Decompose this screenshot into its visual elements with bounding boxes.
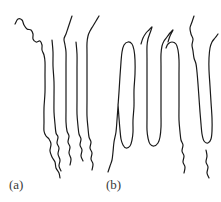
chain-diagram-canvas (0, 0, 221, 202)
polymer-chain-figure: (a) (b) (0, 0, 221, 202)
chain-strand (190, 16, 218, 143)
chain-strand (206, 150, 209, 178)
chain-strand-group (15, 16, 218, 178)
chain-strand (87, 16, 99, 170)
chain-strand (166, 42, 185, 173)
chain-strand (76, 42, 83, 161)
chain-strand (64, 16, 72, 165)
chain-strand (141, 27, 173, 146)
panel-label-a: (a) (9, 178, 23, 191)
chain-strand (52, 40, 61, 171)
chain-strand (15, 19, 60, 178)
panel-label-b: (b) (106, 178, 121, 191)
chain-strand (108, 42, 135, 172)
